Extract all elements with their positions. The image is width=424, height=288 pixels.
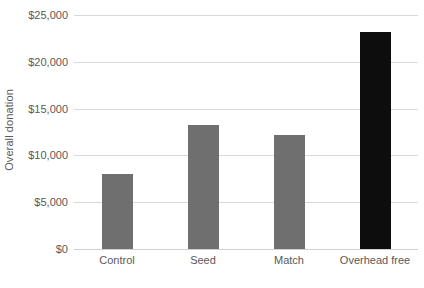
y-tick-label: $0 (16, 244, 68, 255)
bar-match (274, 135, 305, 249)
y-axis-title: Overall donation (0, 0, 18, 260)
y-tick-label: $5,000 (16, 197, 68, 208)
y-tick-label: $15,000 (16, 103, 68, 114)
bar-seed (188, 125, 219, 249)
y-tick-label: $20,000 (16, 56, 68, 67)
y-axis-tick-labels: $0$5,000$10,000$15,000$20,000$25,000 (18, 0, 72, 264)
x-axis-line (74, 249, 418, 250)
x-axis-tick-labels: ControlSeedMatchOverhead free (74, 254, 418, 276)
x-tick-label: Match (274, 254, 304, 266)
bar-control (102, 174, 133, 249)
bars-layer (74, 15, 418, 249)
bar-overhead-free (360, 32, 391, 249)
y-tick-label: $10,000 (16, 150, 68, 161)
y-tick-label: $25,000 (16, 10, 68, 21)
x-tick-label: Seed (190, 254, 216, 266)
x-tick-label: Overhead free (340, 254, 410, 266)
bar-chart: Overall donation $0$5,000$10,000$15,000$… (0, 0, 424, 288)
y-axis-title-label: Overall donation (3, 89, 15, 171)
x-tick-label: Control (99, 254, 134, 266)
